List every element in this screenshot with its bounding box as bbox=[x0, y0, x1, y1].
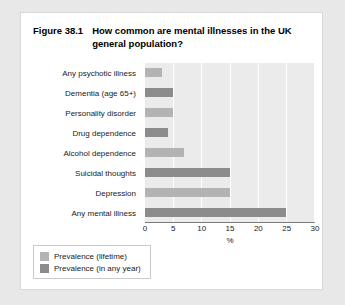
bar bbox=[145, 88, 173, 97]
page-title: How common are mental illnesses in the U… bbox=[92, 24, 313, 50]
bar bbox=[145, 68, 162, 77]
x-tick-label: 25 bbox=[282, 224, 291, 233]
plot-area bbox=[145, 63, 315, 223]
bar-row bbox=[145, 202, 314, 222]
gridline bbox=[314, 63, 315, 222]
x-tick-label: 15 bbox=[226, 224, 235, 233]
bar bbox=[145, 148, 184, 157]
bar bbox=[145, 128, 168, 137]
figure-card: Figure 38.1 How common are mental illnes… bbox=[20, 12, 323, 290]
category-label: Dementia (age 65+) bbox=[33, 83, 141, 103]
bar-row bbox=[145, 162, 314, 182]
legend-label: Prevalence (in any year) bbox=[54, 264, 141, 273]
bar-row bbox=[145, 103, 314, 123]
x-tick-label: 0 bbox=[143, 224, 147, 233]
x-tick-label: 10 bbox=[197, 224, 206, 233]
legend-item: Prevalence (in any year) bbox=[40, 262, 141, 274]
bar-row bbox=[145, 182, 314, 202]
category-axis: Any psychotic illnessDementia (age 65+)P… bbox=[33, 63, 141, 223]
bar-series-group bbox=[145, 63, 314, 222]
bar bbox=[145, 188, 230, 197]
bar-row bbox=[145, 123, 314, 143]
figure-number: Figure 38.1 bbox=[33, 24, 83, 37]
chart-legend: Prevalence (lifetime)Prevalence (in any … bbox=[33, 245, 151, 279]
legend-item: Prevalence (lifetime) bbox=[40, 250, 141, 262]
category-label: Suicidal thoughts bbox=[33, 163, 141, 183]
category-label: Any mental illness bbox=[33, 203, 141, 223]
category-label: Any psychotic illness bbox=[33, 63, 141, 83]
legend-swatch-icon bbox=[40, 252, 49, 261]
x-tick-label: 5 bbox=[171, 224, 175, 233]
bar-row bbox=[145, 83, 314, 103]
legend-swatch-icon bbox=[40, 264, 49, 273]
bar bbox=[145, 108, 173, 117]
category-label: Personality disorder bbox=[33, 103, 141, 123]
legend-label: Prevalence (lifetime) bbox=[54, 252, 127, 261]
x-tick-label: 30 bbox=[311, 224, 320, 233]
bar-chart: Any psychotic illnessDementia (age 65+)P… bbox=[33, 63, 315, 248]
x-axis-label: % bbox=[145, 236, 315, 245]
bar-row bbox=[145, 143, 314, 163]
x-tick-label: 20 bbox=[254, 224, 263, 233]
bar bbox=[145, 208, 286, 217]
category-label: Alcohol dependence bbox=[33, 143, 141, 163]
category-label: Depression bbox=[33, 183, 141, 203]
figure-title-block: Figure 38.1 How common are mental illnes… bbox=[33, 24, 313, 50]
category-label: Drug dependence bbox=[33, 123, 141, 143]
bar-row bbox=[145, 63, 314, 83]
bar bbox=[145, 168, 230, 177]
